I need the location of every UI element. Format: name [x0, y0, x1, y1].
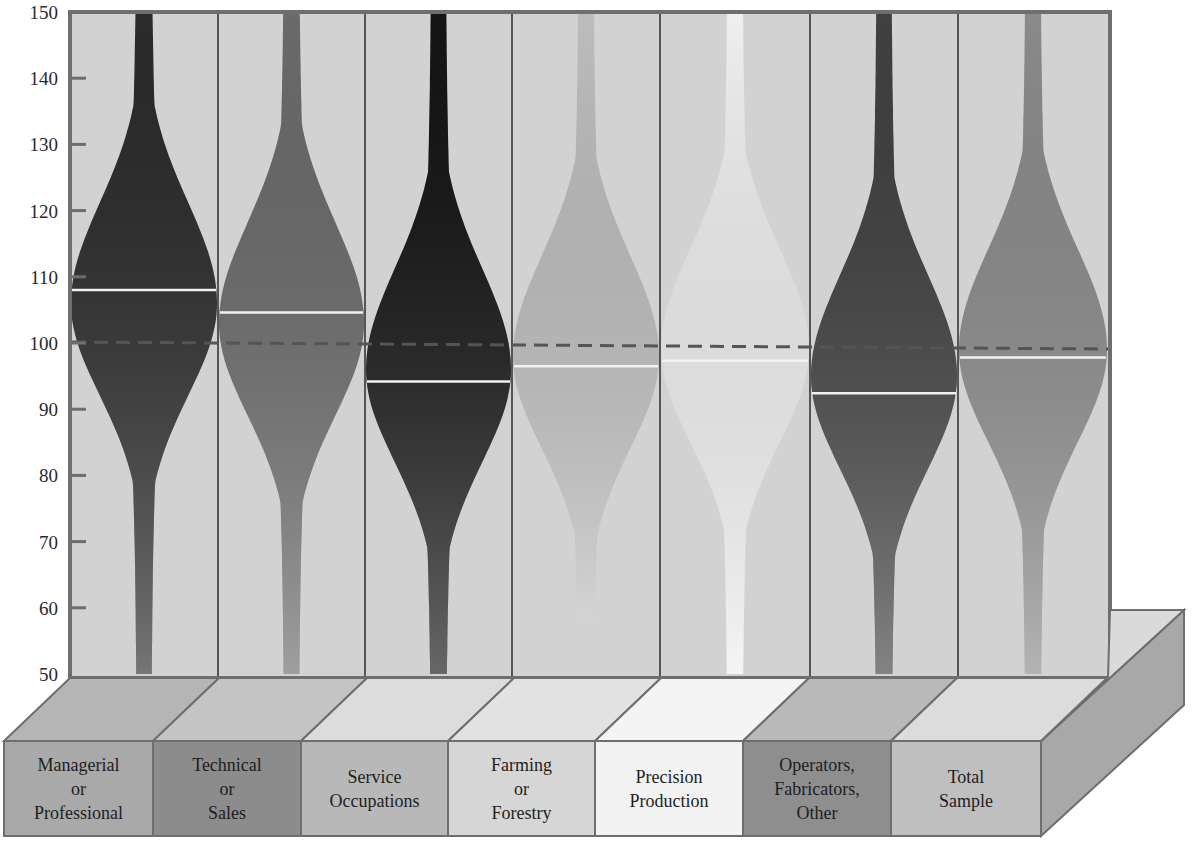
y-tick-label: 80 [39, 465, 58, 486]
category-box-2 [301, 741, 448, 836]
violin-chart: 5060708090100110120130140150 Managerialo… [0, 0, 1199, 846]
y-tick-label: 140 [30, 68, 59, 89]
category-label: or [220, 779, 235, 799]
category-label: or [71, 779, 86, 799]
y-tick-label: 130 [30, 134, 59, 155]
y-tick-label: 120 [30, 201, 59, 222]
y-tick-label: 70 [39, 532, 58, 553]
y-tick-label: 60 [39, 598, 58, 619]
category-label: Professional [34, 803, 123, 823]
category-label: Operators, [779, 755, 854, 775]
category-label: Total [948, 767, 985, 787]
category-label: Farming [491, 755, 552, 775]
category-box-4 [595, 741, 743, 836]
category-label: Precision [636, 767, 703, 787]
category-label: Forestry [492, 803, 552, 823]
y-tick-label: 100 [30, 333, 59, 354]
category-label: Technical [192, 755, 262, 775]
category-box-6 [891, 741, 1041, 836]
y-tick-label: 50 [39, 664, 58, 685]
category-label: Managerial [38, 755, 120, 775]
category-label: Fabricators, [774, 779, 859, 799]
y-tick-label: 90 [39, 399, 58, 420]
category-label: Occupations [330, 791, 420, 811]
category-label: Production [630, 791, 709, 811]
category-label: Sales [208, 803, 246, 823]
category-label: or [514, 779, 529, 799]
y-tick-label: 150 [30, 2, 59, 23]
category-label: Service [348, 767, 402, 787]
category-label: Sample [939, 791, 993, 811]
category-label: Other [797, 803, 838, 823]
y-tick-label: 110 [30, 267, 58, 288]
